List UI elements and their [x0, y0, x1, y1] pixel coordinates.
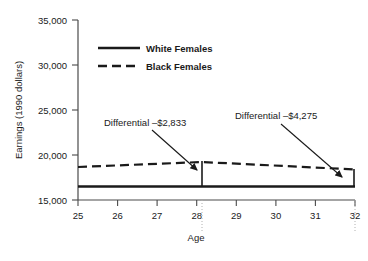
x-axis-title: Age: [188, 232, 205, 243]
earnings-by-age-line-chart: 35,000 30,000 25,000 20,000 15,000 Earni…: [0, 0, 368, 261]
x-tick-label-28: 28: [191, 210, 202, 221]
x-tick-label-29: 29: [231, 210, 242, 221]
legend-label-white-females: White Females: [146, 43, 213, 54]
y-tick-label-20000: 20,000: [38, 150, 67, 161]
x-tick-label-31: 31: [310, 210, 321, 221]
annotation-label-differential-2833: Differential –$2,833: [104, 117, 186, 128]
y-tick-label-30000: 30,000: [38, 60, 67, 71]
legend-label-black-females: Black Females: [146, 61, 212, 72]
x-tick-label-30: 30: [271, 210, 282, 221]
y-tick-label-15000: 15,000: [38, 195, 67, 206]
annotation-label-differential-4275: Differential –$4,275: [235, 110, 317, 121]
x-tick-label-27: 27: [152, 210, 163, 221]
y-axis-title: Earnings (1990 dollars): [13, 61, 24, 159]
x-tick-label-25: 25: [73, 210, 84, 221]
y-tick-label-25000: 25,000: [38, 105, 67, 116]
y-tick-label-35000: 35,000: [38, 15, 67, 26]
chart-container: 35,000 30,000 25,000 20,000 15,000 Earni…: [0, 0, 368, 261]
x-tick-label-26: 26: [112, 210, 123, 221]
